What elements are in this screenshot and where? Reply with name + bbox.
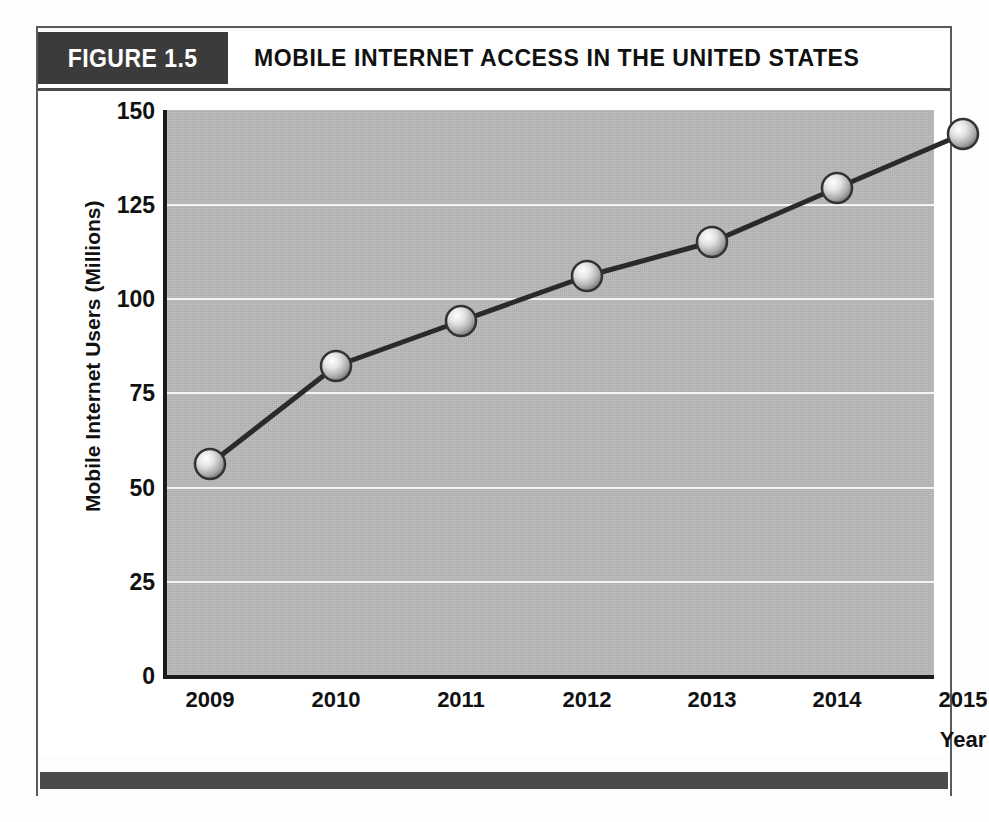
- y-tick-label-0: 0: [43, 663, 155, 690]
- data-point-2013: [697, 227, 727, 257]
- page-title: MOBILE INTERNET ACCESS IN THE UNITED STA…: [254, 44, 859, 72]
- x-tick-label-2014: 2014: [782, 687, 892, 713]
- figure-number-tab: FIGURE 1.5: [38, 32, 228, 84]
- y-axis-title: Mobile Internet Users (Millions): [81, 212, 105, 512]
- x-tick-label-2010: 2010: [281, 687, 391, 713]
- data-point-2011: [446, 306, 476, 336]
- x-axis-title: Year: [908, 727, 989, 753]
- series-layer: [163, 110, 930, 675]
- y-tick-label-150: 150: [43, 98, 155, 125]
- chart-region: Mobile Internet Users (Millions) 150 125…: [38, 95, 950, 755]
- y-tick-label-50: 50: [43, 475, 155, 502]
- y-tick-label-75: 75: [43, 380, 155, 407]
- data-point-2012: [572, 261, 602, 291]
- x-tick-label-2009: 2009: [155, 687, 265, 713]
- figure-number-label: FIGURE 1.5: [68, 44, 198, 73]
- x-tick-label-2013: 2013: [657, 687, 767, 713]
- y-tick-label-25: 25: [43, 569, 155, 596]
- page-border-top: [36, 26, 952, 28]
- data-point-2010: [321, 351, 351, 381]
- figure-title-container: MOBILE INTERNET ACCESS IN THE UNITED STA…: [228, 32, 950, 84]
- x-tick-label-2011: 2011: [406, 687, 516, 713]
- data-point-2015: [948, 119, 978, 149]
- footer-accent-bar: [40, 772, 948, 789]
- x-tick-label-2012: 2012: [532, 687, 642, 713]
- figure-root: FIGURE 1.5 MOBILE INTERNET ACCESS IN THE…: [0, 0, 989, 822]
- y-tick-label-125: 125: [43, 192, 155, 219]
- data-point-2009: [195, 449, 225, 479]
- x-tick-label-2015: 2015: [908, 687, 989, 713]
- y-tick-label-100: 100: [43, 286, 155, 313]
- data-point-2014: [822, 173, 852, 203]
- header-underline: [38, 88, 950, 91]
- figure-header: FIGURE 1.5 MOBILE INTERNET ACCESS IN THE…: [38, 32, 950, 84]
